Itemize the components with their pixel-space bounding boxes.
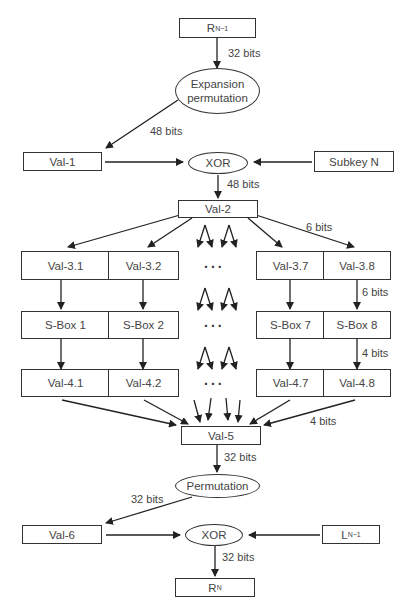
sbox2-box: S-Box 2 xyxy=(108,311,179,339)
val6-box: Val-6 xyxy=(22,525,102,544)
val3-8-box: Val-3.8 xyxy=(323,251,391,280)
label-val2-to-val3: 6 bits xyxy=(306,221,332,233)
val5-box: Val-5 xyxy=(181,426,261,445)
r-prev-box: RN−1 xyxy=(179,18,256,38)
label-val4-to-val5: 4 bits xyxy=(310,415,336,427)
label-exp-to-val1: 48 bits xyxy=(150,125,182,137)
val4-7-box: Val-4.7 xyxy=(256,369,325,397)
xor2-ellipse: XOR xyxy=(185,524,243,546)
subkey-box: Subkey N xyxy=(314,151,394,172)
r-next-main: R xyxy=(208,582,216,594)
val4-8-box: Val-4.8 xyxy=(323,369,391,397)
sbox7-box: S-Box 7 xyxy=(256,311,325,339)
l-prev-sub: N−1 xyxy=(348,531,361,538)
r-prev-sub: N−1 xyxy=(215,25,228,32)
label-sbox-to-val4: 4 bits xyxy=(362,347,388,359)
val3-1-box: Val-3.1 xyxy=(21,251,110,280)
ellipsis-row-val4: ... xyxy=(204,372,225,388)
r-prev-main: R xyxy=(207,22,215,34)
r-next-sub: N xyxy=(217,584,222,591)
l-prev-box: LN−1 xyxy=(322,525,380,544)
r-next-box: RN xyxy=(175,578,255,597)
label-xor-to-val2: 48 bits xyxy=(227,178,259,190)
val4-2-box: Val-4.2 xyxy=(108,369,179,397)
label-xor-to-rn: 32 bits xyxy=(222,551,254,563)
expansion-label: Expansion permutation xyxy=(187,77,249,105)
label-val3-to-sbox: 6 bits xyxy=(362,286,388,298)
expansion-permutation-ellipse: Expansion permutation xyxy=(175,68,260,114)
val1-box: Val-1 xyxy=(23,152,102,171)
sbox1-box: S-Box 1 xyxy=(21,311,110,339)
label-perm-to-val6: 32 bits xyxy=(131,493,163,505)
val2-box: Val-2 xyxy=(178,200,258,218)
permutation-ellipse: Permutation xyxy=(175,474,260,498)
label-val5-to-perm: 32 bits xyxy=(224,451,256,463)
val4-1-box: Val-4.1 xyxy=(21,369,110,397)
ellipsis-row-sbox: ... xyxy=(204,314,225,330)
xor1-ellipse: XOR xyxy=(188,152,248,174)
label-r-to-exp: 32 bits xyxy=(228,47,260,59)
ellipsis-row-val3: ... xyxy=(204,255,225,271)
sbox8-box: S-Box 8 xyxy=(323,311,391,339)
val3-7-box: Val-3.7 xyxy=(256,251,325,280)
val3-2-box: Val-3.2 xyxy=(108,251,179,280)
